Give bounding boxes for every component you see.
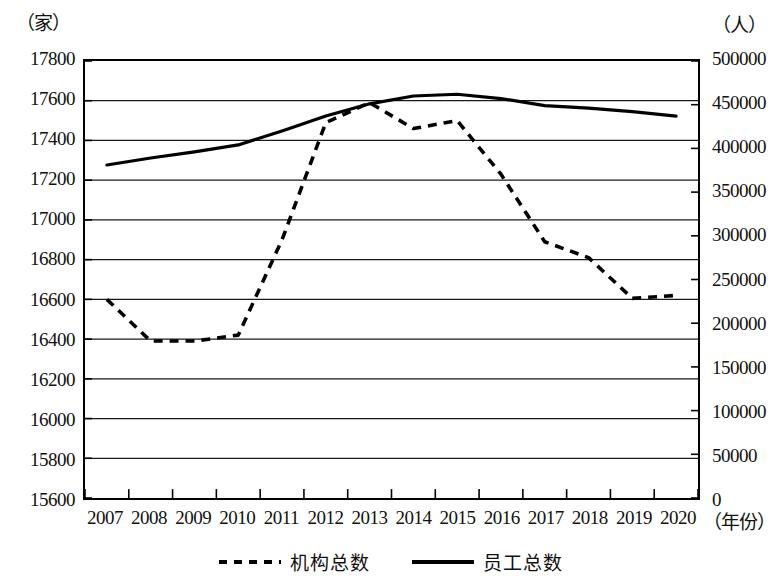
y-axis-left-tick-label: 17800 (30, 48, 75, 70)
x-axis-tick-label: 2020 (660, 507, 696, 529)
y-axis-right-tick-label: 250000 (712, 269, 766, 291)
y-axis-right-tick-label: 300000 (712, 224, 766, 246)
legend-label: 员工总数 (483, 548, 563, 575)
legend-solid-line-icon (412, 560, 474, 564)
y-axis-left-tick-label: 16000 (30, 409, 75, 431)
plot-area (83, 59, 700, 500)
y-axis-right-tick-label: 150000 (712, 357, 766, 379)
y-axis-left-unit-label: （家） (16, 8, 70, 35)
x-axis-tick-label: 2008 (131, 507, 167, 529)
y-axis-right-tick-label: 350000 (712, 180, 766, 202)
x-axis-tick-label: 2014 (396, 507, 432, 529)
y-axis-right-tick-label: 200000 (712, 313, 766, 335)
y-axis-left-tick-label: 15800 (30, 449, 75, 471)
chart-container: （家） （人） 17800176001740017200170001680016… (0, 0, 781, 588)
x-axis-tick-label: 2012 (307, 507, 343, 529)
x-axis-tick-label: 2010 (219, 507, 255, 529)
legend-item[interactable]: 员工总数 (412, 548, 563, 575)
y-axis-left-tick-label: 15600 (30, 489, 75, 511)
x-axis-tick-label: 2018 (572, 507, 608, 529)
x-axis-tick-label: 2013 (351, 507, 387, 529)
chart-svg (85, 61, 698, 498)
series-line (107, 103, 676, 341)
y-axis-right-tick-label: 50000 (712, 445, 757, 467)
x-axis-tick-label: 2016 (484, 507, 520, 529)
legend-item[interactable]: 机构总数 (219, 548, 370, 575)
x-axis-tick-label: 2019 (616, 507, 652, 529)
legend-dashed-line-icon (219, 560, 281, 564)
y-axis-left-tick-label: 16200 (30, 369, 75, 391)
y-axis-left-tick-label: 16600 (30, 289, 75, 311)
x-axis-tick-label: 2007 (87, 507, 123, 529)
y-axis-left-tick-label: 17000 (30, 208, 75, 230)
x-axis-tick-label: 2009 (175, 507, 211, 529)
chart-legend: 机构总数员工总数 (0, 548, 781, 575)
y-axis-right-unit-label: （人） (712, 10, 766, 37)
x-axis-tick-label: 2017 (528, 507, 564, 529)
legend-label: 机构总数 (290, 548, 370, 575)
y-axis-left-tick-label: 17600 (30, 88, 75, 110)
x-axis-tick-label: 2011 (264, 507, 299, 529)
y-axis-right-tick-label: 400000 (712, 136, 766, 158)
y-axis-left-tick-label: 16800 (30, 248, 75, 270)
y-axis-left-tick-label: 17400 (30, 128, 75, 150)
y-axis-right-tick-label: 500000 (712, 48, 766, 70)
y-axis-left-tick-label: 17200 (30, 168, 75, 190)
y-axis-right-tick-label: 450000 (712, 92, 766, 114)
x-axis-tick-label: 2015 (440, 507, 476, 529)
y-axis-right-tick-label: 100000 (712, 401, 766, 423)
series-line (107, 94, 676, 165)
y-axis-left-tick-label: 16400 (30, 329, 75, 351)
x-axis-unit-label: （年份） (703, 507, 775, 534)
